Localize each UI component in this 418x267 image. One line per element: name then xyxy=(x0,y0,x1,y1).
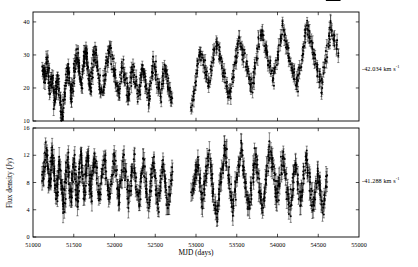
data-point xyxy=(225,161,227,163)
data-point xyxy=(230,87,232,89)
data-point xyxy=(148,104,150,106)
data-point xyxy=(210,165,212,167)
data-point xyxy=(316,186,318,188)
data-point xyxy=(135,186,137,188)
data-point xyxy=(323,66,325,68)
data-point xyxy=(166,73,168,75)
y-axis-label: Flux density (Jy) xyxy=(5,157,14,208)
data-point xyxy=(169,87,171,89)
data-point xyxy=(104,67,106,69)
y-tick-label: 0 xyxy=(26,233,29,240)
data-point xyxy=(157,208,159,210)
data-point xyxy=(261,205,263,207)
data-point xyxy=(122,59,124,61)
data-point xyxy=(257,57,259,59)
data-point xyxy=(75,166,77,168)
data-point xyxy=(115,84,117,86)
data-point xyxy=(333,45,335,47)
data-point xyxy=(288,213,290,215)
data-point xyxy=(111,54,113,56)
data-point xyxy=(105,177,107,179)
data-point xyxy=(74,60,76,62)
data-point xyxy=(207,153,209,155)
data-point xyxy=(168,89,170,91)
data-point xyxy=(253,82,255,84)
data-point xyxy=(301,59,303,61)
data-point xyxy=(325,50,327,52)
data-point xyxy=(77,52,79,54)
data-point xyxy=(190,191,192,193)
data-point xyxy=(105,170,107,172)
data-point xyxy=(279,174,281,176)
data-point xyxy=(161,166,163,168)
data-point xyxy=(289,60,291,62)
data-point xyxy=(285,41,287,43)
data-point xyxy=(115,160,117,162)
data-point xyxy=(126,82,128,84)
data-point xyxy=(221,67,223,69)
data-point xyxy=(199,51,201,53)
data-point xyxy=(107,188,109,190)
data-point xyxy=(282,155,284,157)
data-point xyxy=(135,76,137,78)
data-point xyxy=(310,204,312,206)
data-point xyxy=(62,111,64,113)
data-point xyxy=(248,78,250,80)
data-point xyxy=(112,160,114,162)
data-point xyxy=(165,72,167,74)
x-tick-label: 51000 xyxy=(25,241,40,248)
data-point xyxy=(280,156,282,158)
data-point xyxy=(64,202,66,204)
data-point xyxy=(232,211,234,213)
data-point xyxy=(166,199,168,201)
data-point xyxy=(297,188,299,190)
data-point xyxy=(160,178,162,180)
data-point xyxy=(145,88,147,90)
data-point xyxy=(103,89,105,91)
data-point xyxy=(155,71,157,73)
data-point xyxy=(66,79,68,81)
data-point xyxy=(65,198,67,200)
data-point xyxy=(60,95,62,97)
data-point xyxy=(91,63,93,65)
data-point xyxy=(232,81,234,83)
data-point xyxy=(128,94,130,96)
data-point xyxy=(134,172,136,174)
data-point xyxy=(201,57,203,59)
data-point xyxy=(99,191,101,193)
data-point xyxy=(60,180,62,182)
data-point xyxy=(168,95,170,97)
data-point xyxy=(268,152,270,154)
data-point xyxy=(113,57,115,59)
data-point xyxy=(320,92,322,94)
data-point xyxy=(151,172,153,174)
data-point xyxy=(62,212,64,214)
data-point xyxy=(279,44,281,46)
data-point xyxy=(220,57,222,59)
data-point xyxy=(124,175,126,177)
data-point xyxy=(53,108,55,110)
data-point xyxy=(197,63,199,65)
data-point xyxy=(52,163,54,165)
data-point xyxy=(92,67,94,69)
data-point xyxy=(52,77,54,79)
data-point xyxy=(110,63,112,65)
data-point xyxy=(75,173,77,175)
data-point xyxy=(169,193,171,195)
data-point xyxy=(205,170,207,172)
data-point xyxy=(171,97,173,99)
data-point xyxy=(127,207,129,209)
y-tick-label: 20 xyxy=(23,84,29,91)
data-point xyxy=(297,181,299,183)
data-point xyxy=(165,197,167,199)
data-point xyxy=(164,184,166,186)
data-point xyxy=(278,177,280,179)
data-point xyxy=(265,170,267,172)
data-point xyxy=(296,77,298,79)
data-point xyxy=(252,71,254,73)
data-point xyxy=(72,82,74,84)
y-tick-label: 10 xyxy=(23,117,29,124)
x-tick-label: 54500 xyxy=(311,241,326,248)
data-point xyxy=(81,82,83,84)
data-point xyxy=(86,58,88,60)
